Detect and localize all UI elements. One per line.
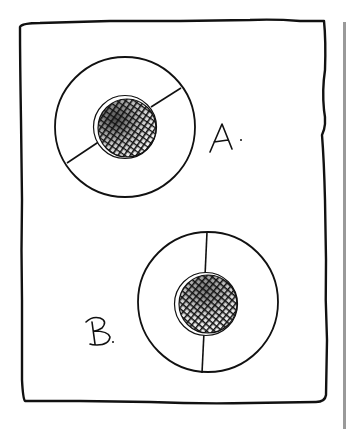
eye-a-pupil-shade: [98, 99, 156, 157]
label-b: [86, 318, 114, 346]
illustration-canvas: A. B.: [0, 0, 346, 429]
eye-b-divider-line-bottom: [202, 332, 204, 373]
label-a-glyph: [210, 124, 232, 152]
label-a-period: [240, 139, 242, 141]
eye-b-pupil-shade: [179, 275, 237, 333]
label-b-text: B.: [86, 344, 88, 345]
label-b-period: [112, 341, 114, 343]
eye-b: [138, 232, 278, 373]
label-a: [210, 124, 242, 152]
eye-b-divider-line-top: [205, 232, 207, 276]
eye-a-divider-line-right: [151, 88, 181, 107]
label-b-glyph: [86, 318, 110, 346]
eye-a: [55, 57, 195, 197]
label-a-text: A.: [210, 151, 212, 152]
eye-a-divider-line-left: [67, 141, 100, 163]
